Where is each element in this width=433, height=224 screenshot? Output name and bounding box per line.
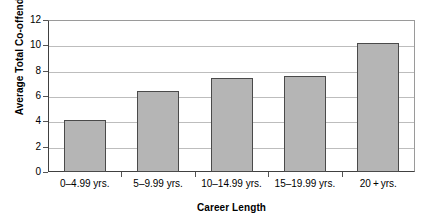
bar xyxy=(211,78,253,172)
bar xyxy=(64,120,106,172)
bar xyxy=(284,76,326,172)
bar xyxy=(357,43,399,172)
x-axis-labels: 0–4.99 yrs.5–9.99 yrs.10–14.99 yrs.15–19… xyxy=(48,178,415,194)
x-axis-tick-label: 0–4.99 yrs. xyxy=(48,178,121,190)
y-axis-tick-label: 4 xyxy=(15,116,41,126)
x-axis-tick-label: 10–14.99 yrs. xyxy=(195,178,268,190)
bar-chart: Average Total Co-offenders 024681012 0–4… xyxy=(0,0,433,224)
y-axis-tick-label: 2 xyxy=(15,142,41,152)
bar xyxy=(137,91,179,172)
y-axis-tick xyxy=(43,172,48,173)
x-axis-title: Career Length xyxy=(48,202,415,213)
y-axis-tick-label: 8 xyxy=(15,66,41,76)
x-axis-tick xyxy=(121,172,122,177)
x-axis-tick-label: 5–9.99 yrs. xyxy=(121,178,194,190)
x-axis-tick-label: 20 + yrs. xyxy=(342,178,415,190)
x-axis-tick xyxy=(268,172,269,177)
y-axis-tick-label: 0 xyxy=(15,167,41,177)
x-axis-tick xyxy=(342,172,343,177)
bars-layer xyxy=(48,20,415,172)
y-axis-tick-label: 10 xyxy=(15,40,41,50)
x-axis-tick xyxy=(195,172,196,177)
x-axis-tick-label: 15–19.99 yrs. xyxy=(268,178,341,190)
y-axis-tick-label: 6 xyxy=(15,91,41,101)
y-axis-tick-label: 12 xyxy=(15,15,41,25)
